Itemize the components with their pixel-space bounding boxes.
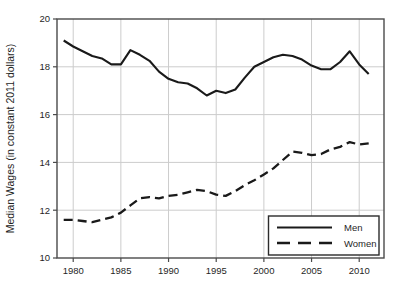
- legend-label-women: Women: [344, 238, 377, 249]
- y-tick-label: 12: [39, 205, 50, 216]
- x-tick-label: 2010: [349, 265, 370, 276]
- legend: MenWomen: [269, 216, 380, 255]
- x-tick-label: 1995: [206, 265, 227, 276]
- y-tick-label: 20: [39, 13, 50, 24]
- x-tick-label: 2005: [301, 265, 322, 276]
- x-tick-label: 1990: [158, 265, 179, 276]
- x-tick-label: 2000: [253, 265, 274, 276]
- x-tick-label: 1985: [110, 265, 131, 276]
- y-tick-label: 18: [39, 61, 50, 72]
- y-tick-label: 10: [39, 252, 50, 263]
- y-axis-title: Median Wages (in constant 2011 dollars): [4, 44, 16, 234]
- y-tick-label: 14: [39, 157, 50, 168]
- wage-chart-svg: 1980198519901995200020052010101214161820…: [0, 0, 404, 298]
- x-tick-label: 1980: [63, 265, 84, 276]
- wage-line-chart: 1980198519901995200020052010101214161820…: [0, 0, 404, 298]
- legend-label-men: Men: [344, 222, 362, 233]
- y-tick-label: 16: [39, 109, 50, 120]
